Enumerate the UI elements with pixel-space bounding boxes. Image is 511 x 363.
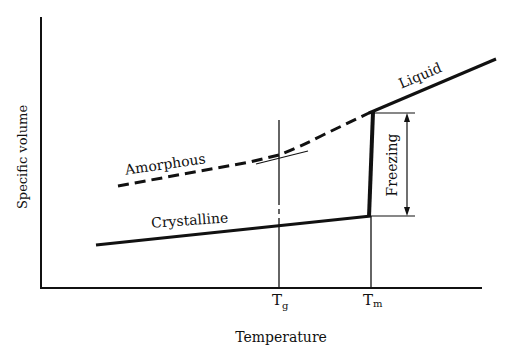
specific-volume-diagram: Freezing Liquid Amorphous Crystalline T … [0,0,511,363]
tm-tick-label: T m [363,291,383,309]
svg-text:T: T [272,291,282,309]
liquid-label: Liquid [396,59,444,91]
freezing-arrow-up-head [404,113,410,122]
freezing-drop [369,112,373,217]
crystalline-curve [96,216,371,245]
amorphous-label: Amorphous [123,150,207,177]
freezing-label: Freezing [384,134,400,197]
x-axis-label: Temperature [235,329,327,345]
svg-text:T: T [363,291,373,309]
freezing-arrow-down-head [404,207,410,216]
svg-text:g: g [282,300,289,311]
amorphous-curve [118,112,371,186]
svg-text:m: m [373,298,383,309]
crystalline-label: Crystalline [151,209,229,230]
y-axis-label: Specific volume [15,105,30,209]
tg-tick-label: T g [272,291,289,311]
tg-tangent-line [256,151,308,164]
